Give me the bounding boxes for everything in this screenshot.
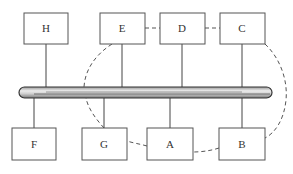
bottom-taps — [34, 94, 242, 128]
node-C[interactable]: C — [220, 13, 265, 44]
bus-topology-diagram: H E D C F G A B — [0, 0, 293, 174]
top-taps — [46, 44, 242, 92]
node-H[interactable]: H — [24, 13, 68, 44]
node-B[interactable]: B — [219, 128, 265, 160]
node-E[interactable]: E — [100, 13, 145, 44]
node-label-E: E — [119, 22, 126, 34]
node-label-B: B — [238, 138, 245, 150]
node-label-D: D — [178, 22, 186, 34]
node-label-C: C — [238, 22, 245, 34]
node-label-A: A — [166, 138, 174, 150]
node-D[interactable]: D — [160, 13, 205, 44]
node-label-F: F — [31, 138, 37, 150]
bus-cable — [19, 87, 272, 98]
node-label-G: G — [100, 138, 108, 150]
node-G[interactable]: G — [82, 128, 127, 160]
node-F[interactable]: F — [12, 128, 56, 160]
node-A[interactable]: A — [147, 128, 193, 160]
node-label-H: H — [42, 22, 50, 34]
